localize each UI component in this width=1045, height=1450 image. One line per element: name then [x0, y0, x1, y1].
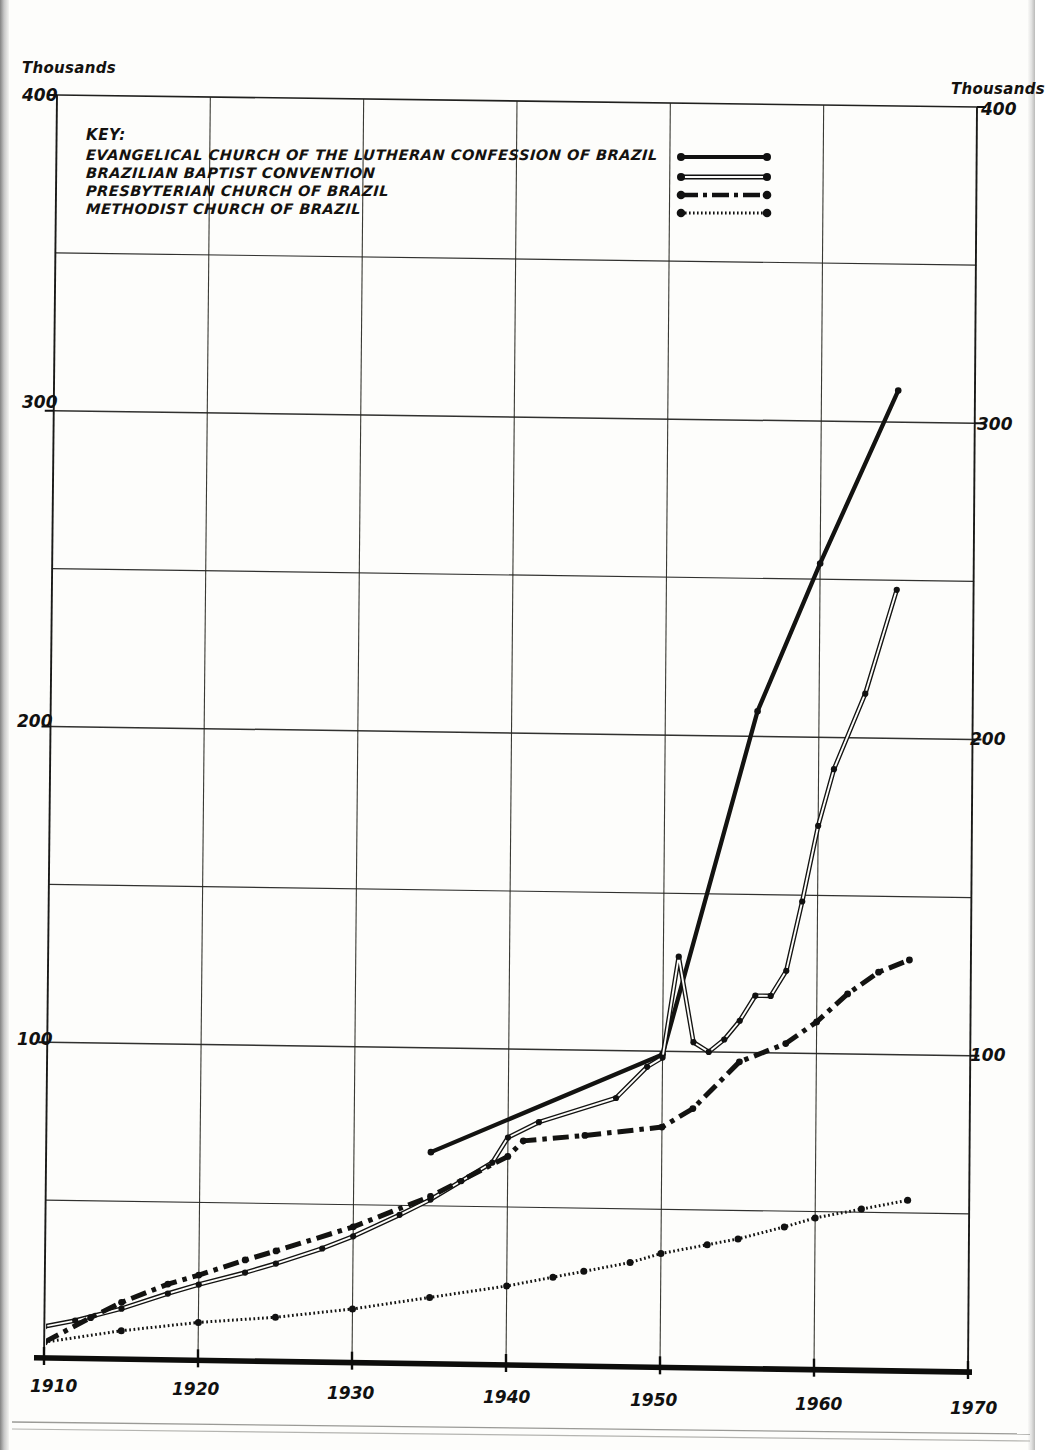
series-thin-double-marker-1959 [799, 898, 805, 904]
series-thin-double-marker-1960 [815, 823, 821, 829]
y-tick-right-100: 100 [970, 1045, 1006, 1065]
series-dotted-marker-1925 [272, 1314, 279, 1321]
y-tick-right-300: 300 [977, 414, 1013, 434]
x-tick-1920: 1920 [172, 1379, 219, 1399]
series-thin-double-inner [44, 590, 896, 1327]
legend-sample-methodist [676, 206, 772, 222]
series-thin-double-marker-1956 [752, 993, 758, 999]
series-dash-dot-marker-1920 [195, 1272, 202, 1279]
x-tick-1960: 1960 [795, 1394, 842, 1414]
series-dotted-line [44, 1200, 907, 1342]
y-tick-left-400: 400 [22, 85, 58, 105]
series-dash-dot-marker-1918 [165, 1281, 172, 1288]
series-thin-double-marker-1965 [894, 587, 900, 593]
series-thin-double-marker-1949 [644, 1064, 650, 1070]
series-dotted-marker-1958 [781, 1223, 788, 1230]
series-thin-double-marker-1923 [242, 1269, 248, 1275]
page-fold-lines [12, 1422, 1030, 1441]
series-dash-dot-marker-1915 [118, 1299, 125, 1306]
series-thin-double-marker-1940 [505, 1134, 511, 1140]
legend-row-baptist: BRAZILIAN BAPTIST CONVENTION [86, 164, 696, 181]
y-tick-left-200: 200 [17, 711, 53, 731]
series-dotted-marker-1935 [426, 1294, 433, 1301]
series-dash-dot-marker-1940 [504, 1153, 511, 1160]
series-dash-dot-marker-1966 [906, 957, 913, 964]
legend-label-baptist: BRAZILIAN BAPTIST CONVENTION [85, 165, 376, 181]
series-thin-double-outer [44, 590, 896, 1327]
series-dash-dot-marker-1935 [427, 1193, 434, 1200]
series-dash-dot-marker-1950 [659, 1124, 666, 1131]
series-dash-dot-marker-1923 [242, 1257, 249, 1264]
series-thin-double-marker-1955 [737, 1018, 743, 1024]
page-fold-line-upper [12, 1422, 1030, 1434]
series-thick-solid-marker-1935 [428, 1149, 435, 1156]
series-thin-double-marker-1942 [536, 1119, 542, 1125]
page-fold-line-lower [12, 1429, 1030, 1441]
series-thick-solid-marker-1965 [895, 387, 902, 394]
series-dash-dot-marker-1930 [350, 1223, 357, 1230]
series-dotted-marker-1966 [904, 1197, 911, 1204]
y-tick-right-200: 200 [970, 729, 1006, 749]
series-thin-double-marker-1961 [831, 766, 837, 772]
x-tick-1910: 1910 [30, 1376, 77, 1396]
series-dash-dot-marker-1962 [844, 990, 851, 997]
x-axis-baseline [34, 1358, 972, 1372]
series-dotted-marker-1930 [349, 1305, 356, 1312]
series-thin-double-marker-1933 [396, 1212, 402, 1218]
grid-lines [46, 95, 977, 1214]
series-thin-double-marker-1954 [721, 1036, 727, 1042]
y-tick-left-100: 100 [17, 1029, 53, 1049]
series-dotted-marker-1963 [858, 1206, 865, 1213]
series-dash-dot-marker-1952 [689, 1105, 696, 1112]
legend-label-lutheran: EVANGELICAL CHURCH OF THE LUTHERAN CONFE… [85, 147, 658, 163]
y-tick-left-300: 300 [22, 392, 58, 412]
series-dotted-marker-1955 [735, 1235, 742, 1242]
legend-label-methodist: METHODIST CHURCH OF BRAZIL [85, 201, 361, 217]
series-dash-dot-marker-1945 [582, 1132, 589, 1139]
series-dotted-marker-1915 [118, 1327, 125, 1334]
series-thin-double-marker-1951 [676, 954, 682, 960]
series-dotted-marker-1953 [704, 1241, 711, 1248]
series-dotted-marker-1945 [580, 1268, 587, 1275]
series-thin-double-marker-1947 [613, 1095, 619, 1101]
series-dotted-marker-1950 [657, 1250, 664, 1257]
series-thin-double-marker-1953 [706, 1049, 712, 1055]
series-thin-double-marker-1958 [783, 968, 789, 974]
series-thin-double-marker-1925 [273, 1260, 279, 1266]
series-dash-dot-marker-1958 [782, 1040, 789, 1047]
legend-title: KEY: [86, 126, 696, 144]
series-thin-double-marker-1950 [659, 1054, 665, 1060]
series-dotted-marker-1920 [195, 1319, 202, 1326]
series-thin-double-marker-1963 [862, 691, 868, 697]
x-axis-line [34, 1347, 972, 1379]
right-axis-unit-label: Thousands [951, 80, 1045, 98]
x-tick-1930: 1930 [327, 1383, 374, 1403]
series-dash-dot-marker-1960 [813, 1018, 820, 1025]
series-thin-double-marker-1918 [165, 1290, 171, 1296]
series-thin-double-marker-1957 [768, 993, 774, 999]
series-dash-dot-marker-1955 [736, 1058, 743, 1065]
series-thin-double-marker-1920 [196, 1281, 202, 1287]
legend-row-presbyterian: PRESBYTERIAN CHURCH OF BRAZIL [86, 182, 696, 199]
x-tick-1950: 1950 [630, 1390, 677, 1410]
series-dash-dot-marker-1913 [87, 1314, 94, 1321]
series-dotted-marker-1943 [549, 1274, 556, 1281]
legend-sample-baptist [676, 170, 772, 186]
x-tick-1940: 1940 [483, 1387, 530, 1407]
series-dash-dot-marker-1941 [520, 1137, 527, 1144]
series-thin-double-marker-1930 [350, 1233, 356, 1239]
series-dotted-marker-1940 [503, 1283, 510, 1290]
y-tick-right-400: 400 [981, 99, 1017, 119]
series-thin-double-marker-1915 [118, 1306, 124, 1312]
legend-label-presbyterian: PRESBYTERIAN CHURCH OF BRAZIL [85, 183, 389, 199]
series-dash-dot-marker-1925 [273, 1248, 280, 1255]
series-dotted-marker-1948 [627, 1259, 634, 1266]
legend-sample-presbyterian [676, 188, 772, 204]
x-tick-1970: 1970 [950, 1398, 997, 1418]
legend-row-lutheran: EVANGELICAL CHURCH OF THE LUTHERAN CONFE… [86, 146, 696, 163]
legend-sample-lutheran [676, 150, 772, 166]
series-dotted-marker-1960 [812, 1214, 819, 1221]
series-dash-dot-marker-1964 [875, 969, 882, 976]
series-dash-dot-line [44, 960, 909, 1342]
series-thick-solid-marker-1960 [817, 560, 824, 567]
